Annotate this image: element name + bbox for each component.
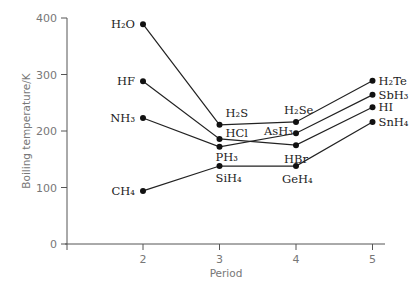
point-label: NH₃ (110, 111, 135, 125)
x-tick-label: 2 (140, 253, 147, 266)
x-tick-label: 5 (369, 253, 376, 266)
y-tick-label: 400 (36, 12, 57, 25)
data-point (293, 163, 299, 169)
point-label: H₂S (226, 106, 249, 120)
data-point (217, 136, 223, 142)
point-label: HF (117, 74, 135, 88)
point-label: HI (379, 100, 394, 114)
y-tick-label: 200 (36, 125, 57, 138)
x-axis-title: Period (210, 267, 243, 279)
series-line (143, 95, 373, 147)
y-tick-label: 100 (36, 182, 57, 195)
series-line (143, 122, 373, 191)
series-line (143, 81, 373, 145)
point-label: GeH₄ (282, 172, 313, 186)
boiling-point-chart: 01002003004002345PeriodBoiling temperatu… (0, 0, 419, 288)
point-label: H₂Te (379, 74, 407, 88)
data-point (293, 130, 299, 136)
data-point (293, 119, 299, 125)
data-point (140, 21, 146, 27)
data-point (293, 142, 299, 148)
data-point (217, 122, 223, 128)
point-label: AsH₃ (263, 124, 293, 138)
point-label: CH₄ (112, 184, 136, 198)
data-point (140, 188, 146, 194)
data-point (370, 104, 376, 110)
point-label: H₂O (111, 17, 135, 31)
point-label: H₂Se (284, 103, 314, 117)
data-point (140, 78, 146, 84)
data-point (140, 115, 146, 121)
y-tick-label: 0 (50, 238, 57, 251)
point-label: SnH₄ (379, 115, 409, 129)
data-point (217, 163, 223, 169)
data-point (370, 92, 376, 98)
x-tick-label: 4 (293, 253, 300, 266)
point-label: SbH₃ (379, 88, 409, 102)
point-label: SiH₄ (216, 171, 243, 185)
y-axis-title: Boiling temperature/K (20, 72, 32, 189)
data-point (370, 78, 376, 84)
data-point (370, 119, 376, 125)
point-label: PH₃ (216, 150, 239, 164)
point-label: HCl (226, 126, 249, 140)
y-tick-label: 300 (36, 69, 57, 82)
x-tick-label: 3 (216, 253, 223, 266)
series-line (143, 24, 373, 125)
